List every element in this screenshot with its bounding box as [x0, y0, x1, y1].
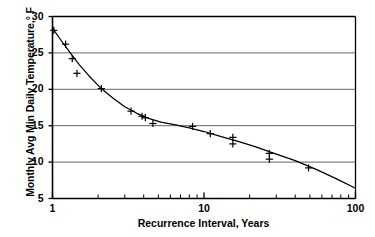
data-point-marker — [142, 114, 149, 121]
data-point-marker — [229, 140, 236, 147]
data-point-marker — [62, 41, 69, 48]
data-point-marker — [73, 70, 80, 77]
data-point-group — [50, 27, 312, 172]
x-tick-label: 1 — [33, 202, 73, 214]
data-point-marker — [138, 113, 145, 120]
data-point-marker — [207, 130, 214, 137]
data-point-marker — [69, 55, 76, 62]
y-tick-label: 25 — [22, 46, 44, 58]
y-tick-label: 30 — [22, 10, 44, 22]
x-tick-label: 100 — [336, 202, 375, 214]
y-tick-label: 10 — [22, 155, 44, 167]
x-tick-label: 10 — [184, 202, 224, 214]
y-tick-label: 20 — [22, 82, 44, 94]
chart-container: Monthly Avg Min Daily Temperature,° F Re… — [0, 0, 375, 237]
fitted-curve — [53, 28, 356, 188]
y-tick-label: 15 — [22, 119, 44, 131]
